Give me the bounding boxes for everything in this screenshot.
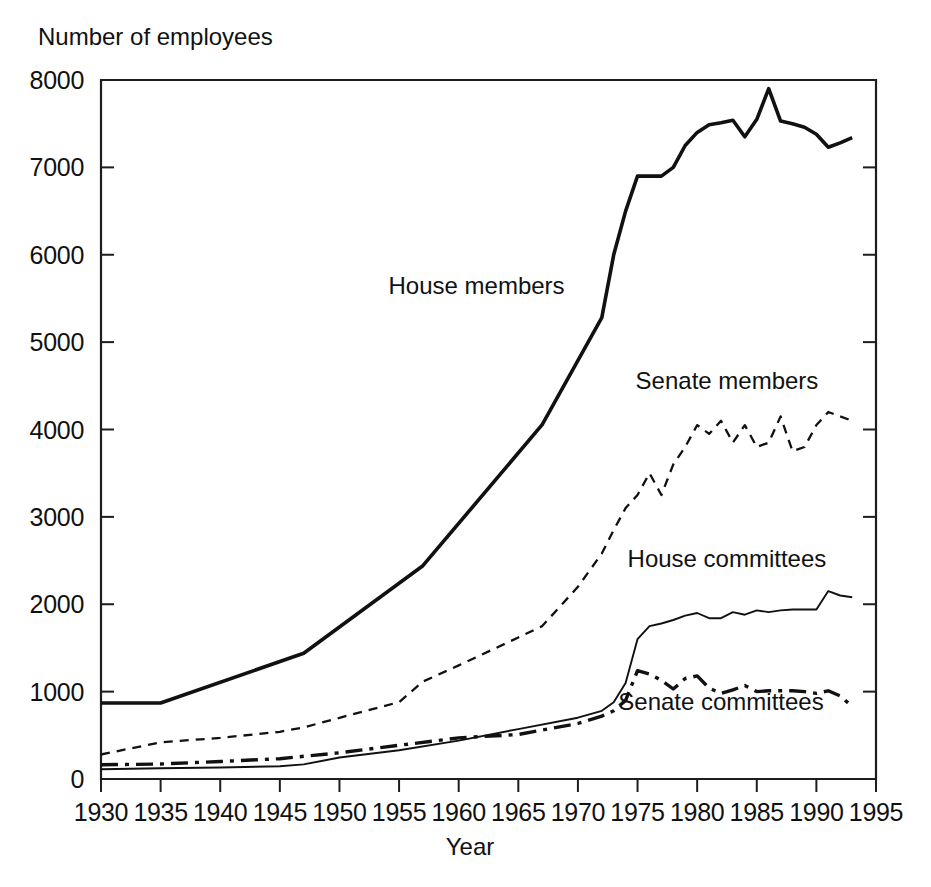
y-tick-label: 2000	[30, 590, 84, 618]
y-axis-title: Number of employees	[38, 23, 273, 50]
y-tick-label: 7000	[30, 153, 84, 181]
series-label-senate-members: Senate members	[636, 367, 819, 394]
x-tick-label: 1975	[610, 798, 664, 826]
y-axis-tick-labels: 010002000300040005000600070008000	[30, 66, 84, 793]
y-tick-label: 8000	[30, 66, 84, 94]
x-tick-label: 1985	[730, 798, 784, 826]
line-chart: Number of employees 01000200030004000500…	[0, 0, 931, 887]
x-tick-label: 1935	[133, 798, 187, 826]
series-label-house-committees: House committees	[628, 545, 827, 572]
x-tick-label: 1995	[849, 798, 903, 826]
x-tick-label: 1990	[789, 798, 843, 826]
y-tick-label: 0	[70, 765, 84, 793]
series-label-house-members: House members	[389, 272, 565, 299]
x-tick-label: 1945	[253, 798, 307, 826]
x-tick-label: 1950	[312, 798, 366, 826]
y-tick-label: 5000	[30, 328, 84, 356]
y-tick-label: 3000	[30, 503, 84, 531]
series-label-senate-committees: Senate committees	[618, 688, 823, 715]
x-tick-label: 1960	[431, 798, 485, 826]
x-tick-label: 1970	[551, 798, 605, 826]
y-tick-label: 4000	[30, 416, 84, 444]
x-tick-label: 1980	[670, 798, 724, 826]
x-tick-label: 1940	[193, 798, 247, 826]
chart-container: Number of employees 01000200030004000500…	[0, 0, 931, 887]
x-tick-label: 1955	[372, 798, 426, 826]
x-tick-label: 1930	[74, 798, 128, 826]
y-tick-label: 1000	[30, 678, 84, 706]
x-tick-label: 1965	[491, 798, 545, 826]
chart-background	[0, 0, 931, 887]
x-axis-title: Year	[446, 833, 495, 860]
y-tick-label: 6000	[30, 241, 84, 269]
